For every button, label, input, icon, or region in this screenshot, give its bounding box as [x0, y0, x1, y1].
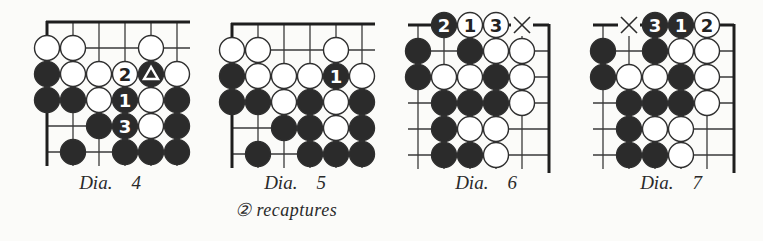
white-stone — [643, 117, 668, 142]
black-stone — [643, 91, 668, 116]
caption-dia-7: Dia. 7 — [621, 172, 721, 194]
white-stone — [695, 39, 720, 64]
black-stone — [617, 117, 642, 142]
black-stone — [669, 65, 694, 90]
white-stone — [695, 65, 720, 90]
white-stone — [695, 91, 720, 116]
move-number: 1 — [675, 15, 688, 36]
black-stone — [591, 39, 616, 64]
white-stone — [617, 65, 642, 90]
black-stone — [591, 65, 616, 90]
black-stone — [669, 91, 694, 116]
black-stone — [617, 143, 642, 168]
go-board-dia-7: 312 — [0, 0, 763, 241]
white-stone — [669, 117, 694, 142]
white-stone — [669, 39, 694, 64]
black-stone — [643, 39, 668, 64]
move-number: 2 — [701, 15, 714, 36]
white-stone — [643, 65, 668, 90]
white-stone — [669, 143, 694, 168]
black-stone — [617, 91, 642, 116]
black-stone — [643, 143, 668, 168]
move-number: 3 — [649, 15, 662, 36]
